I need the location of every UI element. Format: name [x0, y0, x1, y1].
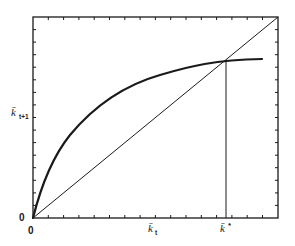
phase-diagram: k̄ t+1 0 0 k̄ t k̄ * — [0, 0, 295, 246]
svg-text:t: t — [155, 229, 158, 236]
y-axis-label: k̄ t+1 — [11, 106, 29, 120]
x-origin-label: 0 — [28, 225, 34, 236]
y-origin-label: 0 — [19, 212, 25, 223]
accumulation-curve — [33, 59, 262, 218]
svg-text:t+1: t+1 — [19, 113, 29, 120]
45-degree-line — [33, 17, 278, 218]
svg-text:*: * — [228, 221, 232, 230]
svg-text:k̄: k̄ — [148, 222, 154, 234]
steady-state-label: k̄ * — [220, 221, 232, 234]
x-axis-label: k̄ t — [148, 222, 158, 236]
svg-text:k̄: k̄ — [11, 106, 17, 118]
svg-text:k̄: k̄ — [220, 222, 226, 234]
